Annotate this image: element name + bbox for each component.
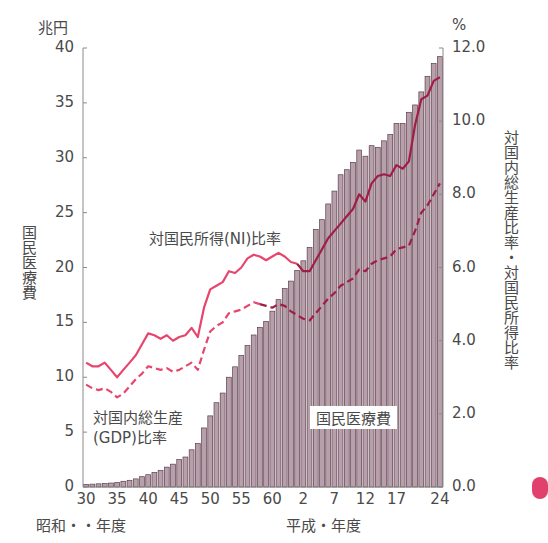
bar bbox=[264, 321, 269, 487]
x-tick-label: 60 bbox=[263, 490, 282, 508]
bar bbox=[295, 270, 300, 487]
bar bbox=[102, 483, 107, 487]
bar bbox=[419, 92, 424, 487]
bar bbox=[202, 428, 207, 487]
x-tick-label: 50 bbox=[201, 490, 220, 508]
page-edge-marker bbox=[532, 477, 548, 499]
bar bbox=[369, 146, 374, 487]
bar bbox=[183, 457, 188, 487]
era-label-showa: 昭和・・年度 bbox=[36, 514, 126, 535]
right-tick-label: 4.0 bbox=[452, 331, 476, 349]
bar bbox=[320, 220, 325, 487]
bar bbox=[400, 124, 405, 487]
bar bbox=[431, 63, 436, 487]
bar bbox=[109, 483, 114, 487]
x-tick-label: 35 bbox=[108, 490, 127, 508]
x-tick-label: 24 bbox=[430, 490, 449, 508]
right-axis-unit: % bbox=[452, 16, 466, 34]
bar bbox=[208, 416, 213, 487]
bar bbox=[121, 481, 126, 487]
left-tick-label: 15 bbox=[34, 312, 74, 330]
ni-ratio-annotation: 対国民所得(NI)比率 bbox=[149, 227, 281, 248]
bar bbox=[127, 480, 132, 487]
x-tick-label: 40 bbox=[139, 490, 158, 508]
bar bbox=[276, 300, 281, 487]
bar bbox=[388, 135, 393, 487]
left-tick-label: 10 bbox=[34, 367, 74, 385]
left-tick-label: 0 bbox=[34, 477, 74, 495]
bar bbox=[226, 377, 231, 487]
bar bbox=[177, 460, 182, 487]
bar bbox=[239, 356, 244, 487]
right-tick-label: 10.0 bbox=[452, 111, 485, 129]
bar bbox=[189, 450, 194, 487]
x-tick-label: 30 bbox=[77, 490, 96, 508]
bar bbox=[164, 467, 169, 487]
left-tick-label: 35 bbox=[34, 93, 74, 111]
x-tick-label: 12 bbox=[356, 490, 375, 508]
bar bbox=[363, 156, 368, 487]
bar bbox=[313, 229, 318, 487]
bar bbox=[307, 247, 312, 487]
right-tick-label: 6.0 bbox=[452, 258, 476, 276]
x-tick-label: 7 bbox=[330, 490, 340, 508]
bar bbox=[257, 327, 262, 487]
bar bbox=[245, 346, 250, 487]
bar bbox=[233, 367, 238, 487]
bar bbox=[425, 76, 430, 487]
x-tick-label: 2 bbox=[299, 490, 309, 508]
bar bbox=[195, 444, 200, 487]
bar bbox=[382, 141, 387, 487]
era-label-heisei: 平成・年度 bbox=[286, 514, 361, 535]
bar bbox=[146, 475, 151, 487]
bar bbox=[332, 191, 337, 487]
gdp-ratio-annotation-line1: 対国内総生産 bbox=[93, 406, 183, 427]
right-tick-label: 8.0 bbox=[452, 184, 476, 202]
bar bbox=[171, 464, 176, 487]
bar bbox=[394, 123, 399, 487]
bar bbox=[251, 335, 256, 487]
bar bbox=[375, 147, 380, 487]
left-tick-label: 5 bbox=[34, 422, 74, 440]
bar bbox=[282, 289, 287, 487]
x-tick-label: 55 bbox=[232, 490, 251, 508]
bar bbox=[214, 403, 219, 487]
right-tick-label: 2.0 bbox=[452, 404, 476, 422]
right-axis-title: 対国内総生産比率・対国民所得比率 bbox=[502, 130, 518, 370]
bar bbox=[326, 204, 331, 487]
x-tick-label: 17 bbox=[387, 490, 406, 508]
left-tick-label: 25 bbox=[34, 203, 74, 221]
bar bbox=[152, 473, 157, 487]
bar bbox=[158, 470, 163, 487]
left-tick-label: 40 bbox=[34, 38, 74, 56]
gdp-ratio-annotation-line2: (GDP)比率 bbox=[93, 426, 167, 447]
bar bbox=[220, 393, 225, 487]
left-tick-label: 30 bbox=[34, 148, 74, 166]
bar bbox=[140, 477, 145, 487]
bar bbox=[413, 105, 418, 487]
bar bbox=[301, 261, 306, 487]
bar bbox=[270, 311, 275, 487]
bar bbox=[406, 112, 411, 487]
right-tick-label: 12.0 bbox=[452, 38, 485, 56]
left-tick-label: 20 bbox=[34, 258, 74, 276]
left-axis-unit: 兆円 bbox=[38, 16, 68, 37]
bar bbox=[115, 483, 120, 488]
x-tick-label: 45 bbox=[170, 490, 189, 508]
right-tick-label: 0.0 bbox=[452, 477, 476, 495]
medical-expenditure-annotation: 国民医療費 bbox=[310, 406, 397, 429]
bar bbox=[133, 479, 138, 487]
